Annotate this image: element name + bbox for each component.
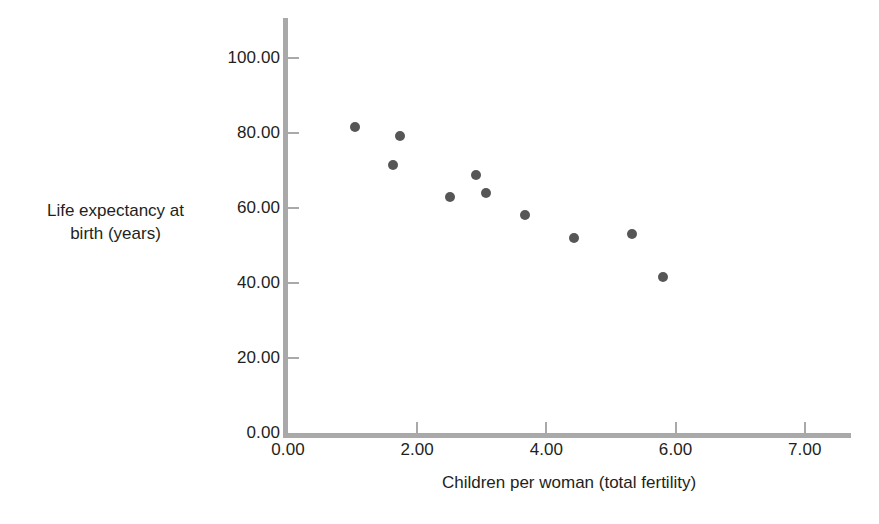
data-point <box>520 210 530 220</box>
data-point <box>388 160 398 170</box>
x-axis-title: Children per woman (total fertility) <box>287 473 851 493</box>
x-axis-tick-label: 0.00 <box>248 440 328 460</box>
y-axis-tick <box>288 357 299 359</box>
x-axis-tick-label: 2.00 <box>377 440 457 460</box>
x-axis-tick-label: 7.00 <box>765 440 845 460</box>
data-point <box>445 192 455 202</box>
data-point <box>627 229 637 239</box>
y-axis-tick-label: 100.00 <box>188 48 280 68</box>
y-axis-tick <box>288 207 299 209</box>
x-axis-tick-label: 4.00 <box>506 440 586 460</box>
data-point <box>481 188 491 198</box>
y-axis-title-line-1: Life expectancy at <box>18 199 213 222</box>
y-axis-tick <box>288 57 299 59</box>
y-axis-tick-label: 80.00 <box>188 123 280 143</box>
x-axis-line <box>283 433 851 438</box>
y-axis-line <box>283 18 288 437</box>
data-point <box>658 272 668 282</box>
y-axis-tick <box>288 282 299 284</box>
scatter-plot-figure: 0.0020.0040.0060.0080.00100.00 0.002.004… <box>0 0 879 524</box>
x-axis-tick <box>416 422 418 433</box>
x-axis-tick-label: 6.00 <box>636 440 716 460</box>
y-axis-title-line-2: birth (years) <box>18 222 213 245</box>
y-axis-title: Life expectancy at birth (years) <box>18 199 213 245</box>
y-axis-tick <box>288 132 299 134</box>
y-axis-tick-label: 40.00 <box>188 273 280 293</box>
data-point <box>350 122 360 132</box>
data-point <box>471 170 481 180</box>
data-point <box>569 233 579 243</box>
y-axis-tick-label: 20.00 <box>188 348 280 368</box>
x-axis-tick <box>804 422 806 433</box>
x-axis-tick <box>675 422 677 433</box>
data-point <box>395 131 405 141</box>
x-axis-tick <box>545 422 547 433</box>
